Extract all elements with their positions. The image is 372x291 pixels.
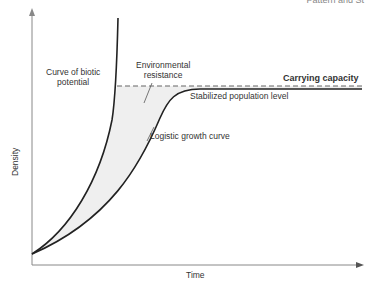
logistic-growth-curve	[32, 89, 362, 254]
y-axis-label: Density	[10, 148, 20, 176]
stabilized-level-label: Stabilized population level	[190, 91, 288, 101]
env-label-line1: Environmental	[136, 60, 190, 70]
y-axis-arrow-icon	[29, 8, 35, 16]
env-label-line2: resistance	[136, 70, 190, 80]
environmental-resistance-label: Environmental resistance	[136, 60, 190, 80]
logistic-curve-label: Logistic growth curve	[150, 131, 230, 141]
carrying-capacity-label: Carrying capacity	[283, 73, 359, 83]
biotic-label-line1: Curve of biotic	[46, 67, 100, 77]
biotic-potential-label: Curve of biotic potential	[46, 67, 100, 87]
growth-diagram	[0, 0, 372, 291]
x-axis-arrow-icon	[356, 262, 364, 268]
x-axis-label: Time	[186, 270, 205, 280]
biotic-label-line2: potential	[46, 77, 100, 87]
environmental-resistance-region	[32, 86, 362, 254]
